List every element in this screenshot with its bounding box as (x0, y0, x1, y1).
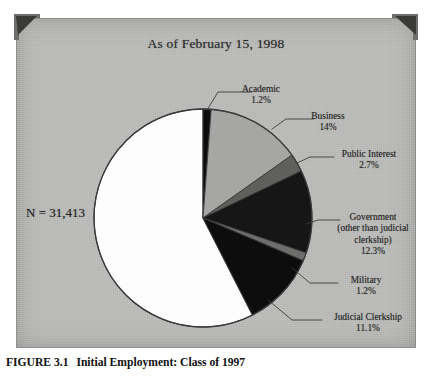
label-academic-name: Academic (242, 84, 280, 94)
label-academic-pct: 1.2% (226, 95, 296, 106)
label-judicial-pct: 11.1% (316, 323, 420, 334)
label-judicial-clerkship: Judicial Clerkship 11.1% (316, 312, 420, 335)
label-business-pct: 14% (296, 122, 360, 133)
label-judicial-name: Judicial Clerkship (334, 312, 402, 322)
label-government-line2: (other than judicial (326, 223, 420, 234)
label-government: Government (other than judicial clerkshi… (326, 212, 420, 258)
figure-caption-text: Initial Employment: Class of 1997 (76, 356, 245, 369)
label-public-interest-name: Public Interest (342, 149, 396, 159)
label-government-line3: clerkship) (326, 235, 420, 246)
label-government-pct: 12.3% (326, 246, 420, 257)
label-public-interest: Public Interest 2.7% (325, 149, 413, 172)
label-academic: Academic 1.2% (226, 84, 296, 107)
label-military: Military 1.2% (330, 275, 402, 298)
figure-number: FIGURE 3.1 (6, 356, 68, 369)
sample-size-label: N = 31,413 (26, 205, 85, 221)
leader-line-judicial (268, 300, 322, 320)
label-business-name: Business (311, 111, 344, 121)
label-military-name: Military (351, 275, 382, 285)
label-business: Business 14% (296, 111, 360, 134)
figure-caption: FIGURE 3.1 Initial Employment: Class of … (6, 356, 245, 369)
label-military-pct: 1.2% (330, 286, 402, 297)
label-public-interest-pct: 2.7% (325, 160, 413, 171)
figure-page: As of February 15, 1998 (0, 0, 432, 381)
label-government-line1: Government (350, 212, 397, 222)
